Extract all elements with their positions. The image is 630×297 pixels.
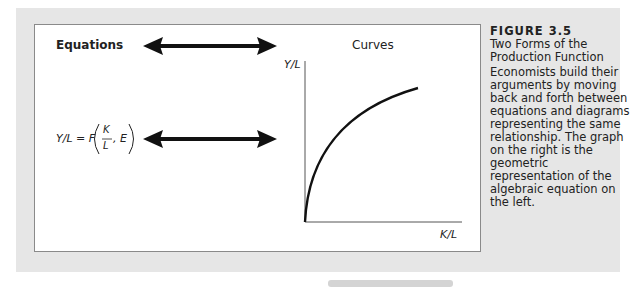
x-axis-label: K/L — [440, 228, 457, 241]
equations-heading: Equations — [56, 38, 123, 52]
y-axis-label: Y/L — [284, 58, 301, 71]
equation-lhs: Y/L = F — [56, 132, 95, 145]
production-curve — [305, 88, 418, 222]
equation-rest: , E — [113, 132, 127, 145]
scan-smudge — [328, 280, 453, 287]
equation-denominator: L — [103, 140, 109, 151]
double-arrow-icon — [143, 130, 277, 148]
figure-caption: FIGURE 3.5 Two Forms of the Production F… — [490, 24, 630, 209]
equation-numerator: K — [103, 124, 110, 135]
left-paren — [95, 124, 100, 154]
figure-title: Two Forms of the Production Function — [490, 38, 630, 64]
right-paren — [129, 124, 134, 154]
double-arrow-icon — [143, 37, 277, 55]
figure-body: Economists build their arguments by movi… — [490, 66, 630, 209]
curves-heading: Curves — [352, 38, 394, 52]
figure-number: FIGURE 3.5 — [490, 24, 630, 38]
